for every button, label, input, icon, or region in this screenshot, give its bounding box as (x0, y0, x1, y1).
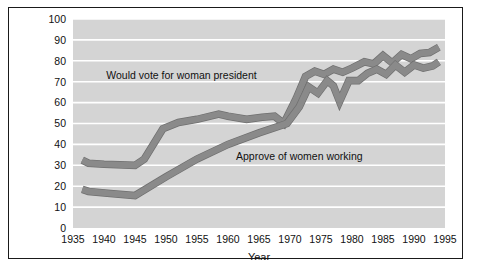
x-axis-title: Year (248, 251, 271, 260)
y-axis-labels: 0102030405060708090100 (48, 13, 66, 234)
x-tick-label: 1985 (371, 233, 395, 245)
y-tick-label: 20 (54, 180, 66, 192)
chart-frame: 0102030405060708090100193519401945195019… (8, 7, 463, 259)
line-chart: 0102030405060708090100193519401945195019… (9, 8, 464, 260)
x-tick-label: 1940 (92, 233, 116, 245)
series-label-1: Approve of women working (236, 150, 363, 162)
x-tick-label: 1945 (123, 233, 147, 245)
series-label-0: Would vote for woman president (106, 69, 256, 81)
x-tick-label: 1980 (340, 233, 364, 245)
x-tick-label: 1935 (61, 233, 85, 245)
x-tick-label: 1995 (433, 233, 457, 245)
x-tick-label: 1965 (247, 233, 271, 245)
y-tick-label: 100 (48, 13, 66, 25)
y-tick-label: 80 (54, 55, 66, 67)
x-tick-label: 1950 (154, 233, 178, 245)
y-tick-label: 0 (60, 222, 66, 234)
y-tick-label: 40 (54, 138, 66, 150)
chart-canvas: 0102030405060708090100193519401945195019… (9, 8, 464, 260)
x-tick-label: 1975 (309, 233, 333, 245)
x-tick-label: 1990 (402, 233, 426, 245)
y-tick-label: 70 (54, 76, 66, 88)
y-tick-label: 50 (54, 117, 66, 129)
y-tick-label: 60 (54, 96, 66, 108)
x-tick-label: 1955 (185, 233, 209, 245)
y-tick-label: 30 (54, 159, 66, 171)
x-tick-label: 1970 (278, 233, 302, 245)
x-axis-labels: 1935194019451950195519601965197019751980… (61, 233, 457, 245)
y-tick-label: 90 (54, 34, 66, 46)
x-tick-label: 1960 (216, 233, 240, 245)
y-tick-label: 10 (54, 201, 66, 213)
